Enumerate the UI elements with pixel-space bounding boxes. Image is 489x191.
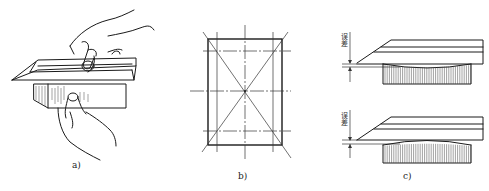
panel-a-label: a) <box>72 160 81 170</box>
concave-case <box>342 32 483 84</box>
panel-c-label: c) <box>403 171 412 181</box>
error-label-bottom: 误差 <box>339 112 349 126</box>
panel-b-label: b) <box>238 171 247 181</box>
convex-hatch <box>385 144 471 163</box>
convex-case <box>342 110 483 163</box>
error-label-top: 误差 <box>339 33 349 47</box>
